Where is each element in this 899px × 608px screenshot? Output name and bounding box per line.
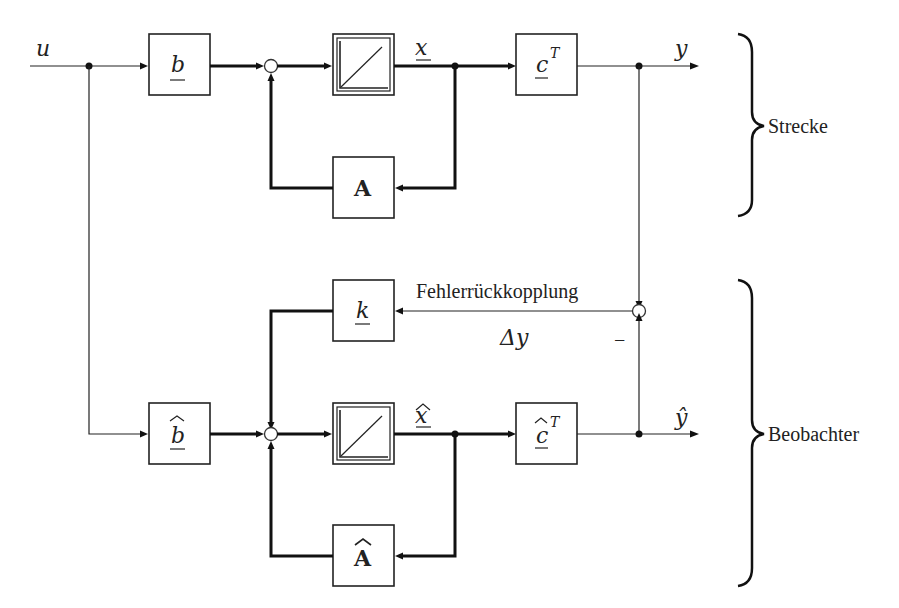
input-label-u: u <box>36 36 50 61</box>
observer-b-label: b <box>171 423 185 448</box>
arrow-icon <box>690 63 699 70</box>
arrow-icon <box>256 431 264 438</box>
arrow-icon <box>395 185 403 192</box>
plant-feedback-line-to-sum <box>271 80 333 188</box>
arrow-icon <box>140 63 148 70</box>
plant-b-label: b <box>171 52 185 77</box>
arrow-icon <box>140 431 148 438</box>
arrow-icon <box>395 553 403 560</box>
gain-to-sum-line <box>271 311 333 424</box>
observer-group-brace <box>738 280 764 586</box>
arrow-icon <box>508 431 516 438</box>
plant-c-label: c <box>536 52 548 77</box>
observer-group-label: Beobachter <box>768 423 859 445</box>
branch-point <box>636 431 643 438</box>
plant-state-label-x: x <box>415 35 428 60</box>
plant-group-label: Strecke <box>768 115 828 137</box>
observer-feedback-line-to-A-hat <box>402 434 455 556</box>
observer-c-label: c <box>536 423 548 448</box>
arrow-icon <box>508 63 516 70</box>
plant-A-label: A <box>353 175 372 201</box>
observer-k-label: k <box>356 298 369 323</box>
plant-feedback-line-to-A <box>402 66 455 188</box>
error-feedback-label: Fehlerrückkopplung <box>416 280 578 303</box>
arrow-icon <box>324 63 332 70</box>
plant-group-brace <box>738 34 764 216</box>
arrow-icon <box>395 308 403 315</box>
observer-feedback-line-to-sum <box>271 448 333 556</box>
observer-block-diagram: u b x c T y A Strecke − F <box>0 0 899 608</box>
observer-input-line <box>89 66 142 434</box>
arrow-icon <box>690 431 699 438</box>
observer-output-label-y-hat: ŷ <box>674 405 688 430</box>
arrow-icon <box>268 441 275 449</box>
output-label-y: y <box>674 36 688 61</box>
observer-summing-junction <box>265 428 278 441</box>
minus-sign: − <box>614 329 625 351</box>
arrow-icon <box>324 431 332 438</box>
observer-A-label: A <box>353 545 372 571</box>
plant-summing-junction <box>265 60 278 73</box>
error-signal-label: Δy <box>499 325 529 350</box>
arrow-icon <box>256 63 264 70</box>
arrow-icon <box>268 73 275 81</box>
